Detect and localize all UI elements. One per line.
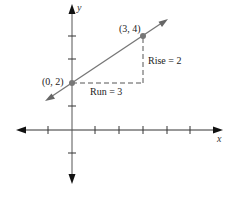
- run-label: Run = 3: [90, 87, 122, 97]
- line-upper-arrow-icon: [159, 19, 169, 27]
- coordinate-graph: [0, 0, 234, 199]
- x-axis-left-arrow-icon: [16, 127, 26, 134]
- point-0-2: [69, 80, 75, 86]
- x-axis: [16, 126, 223, 134]
- y-axis-up-arrow-icon: [69, 4, 76, 14]
- point-3-4-label: (3, 4): [119, 24, 141, 34]
- point-0-2-label: (0, 2): [42, 77, 64, 87]
- y-axis: [68, 4, 76, 184]
- y-axis-down-arrow-icon: [69, 174, 76, 184]
- x-axis-label: x: [217, 134, 221, 144]
- rise-label: Rise = 2: [148, 56, 181, 66]
- y-axis-label: y: [77, 3, 81, 13]
